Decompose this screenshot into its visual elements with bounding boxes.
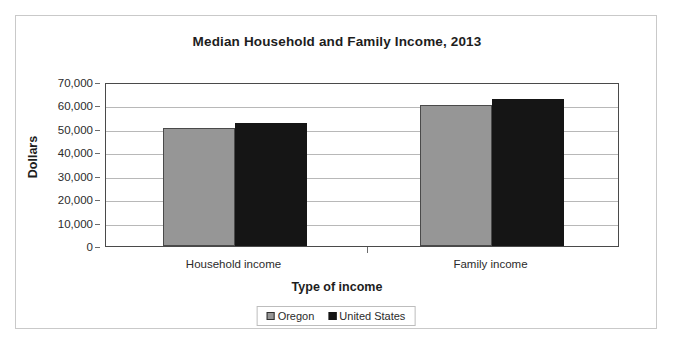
bar-oregon-family-income — [420, 105, 492, 246]
chart-legend: OregonUnited States — [257, 306, 416, 326]
y-axis-tick-mark — [95, 224, 100, 225]
legend-item-label: United States — [339, 310, 405, 322]
bar-united-states-household-income — [235, 123, 307, 246]
y-axis-tick-label: 60,000 — [58, 100, 93, 112]
bars-layer — [106, 84, 618, 246]
y-axis-tick-label: 0 — [87, 241, 93, 253]
chart-container: Median Household and Family Income, 2013… — [15, 15, 657, 329]
y-axis-tick-mark — [95, 106, 100, 107]
y-axis-tick-mark — [95, 247, 100, 248]
y-axis-tick-label: 30,000 — [58, 171, 93, 183]
bar-oregon-household-income — [163, 128, 235, 246]
y-axis-tick-labels: 70,00060,00050,00040,00030,00020,00010,0… — [16, 83, 100, 247]
legend-swatch-oregon — [267, 312, 275, 320]
y-axis-tick-mark — [95, 153, 100, 154]
legend-item-united-states[interactable]: United States — [328, 310, 405, 322]
plot-area — [105, 83, 619, 247]
legend-swatch-united-states — [328, 312, 336, 320]
y-axis-tick-label: 20,000 — [58, 194, 93, 206]
legend-item-label: Oregon — [278, 310, 315, 322]
x-axis-tick-label: Family income — [421, 258, 561, 270]
y-axis-tick-mark — [95, 83, 100, 84]
x-axis-tick-label: Household income — [164, 258, 304, 270]
x-axis-title: Type of income — [16, 280, 658, 294]
y-axis-tick-mark — [95, 177, 100, 178]
x-axis-category-tick — [367, 247, 368, 253]
y-axis-tick-label: 70,000 — [58, 77, 93, 89]
y-axis-tick-label: 50,000 — [58, 124, 93, 136]
y-axis-tick-mark — [95, 200, 100, 201]
y-axis-tick-label: 40,000 — [58, 147, 93, 159]
legend-item-oregon[interactable]: Oregon — [267, 310, 315, 322]
bar-united-states-family-income — [492, 99, 564, 246]
y-axis-tick-label: 10,000 — [58, 218, 93, 230]
y-axis-tick-mark — [95, 130, 100, 131]
chart-title: Median Household and Family Income, 2013 — [16, 34, 658, 49]
